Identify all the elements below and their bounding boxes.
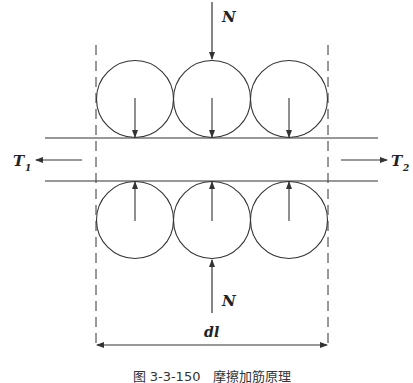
normal-force-bottom-label: N <box>221 292 237 310</box>
contact-force-arrows <box>135 98 289 221</box>
normal-force-top-label: N <box>221 8 237 26</box>
tension-left-subscript: 1 <box>25 163 31 173</box>
length-label-d: d <box>204 324 214 340</box>
friction-reinforcement-diagram: N N T 1 T 2 d l 图 3-3-150 摩擦加筋原理 <box>0 0 413 383</box>
tension-right-subscript: 2 <box>402 163 409 173</box>
figure-caption: 图 3-3-150 摩擦加筋原理 <box>133 369 292 383</box>
length-label-l: l <box>214 324 219 340</box>
